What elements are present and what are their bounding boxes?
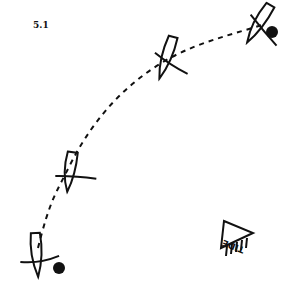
tide-indicator: TIDE xyxy=(221,221,253,256)
boat-hull-icon xyxy=(156,35,178,80)
sail-boom-line xyxy=(20,256,59,263)
sailing-diagram: TIDE xyxy=(0,0,297,290)
boat-hull-icon xyxy=(61,151,77,192)
boat-hull-icon xyxy=(30,233,43,278)
course-path xyxy=(38,25,262,248)
mark-buoy-icon xyxy=(53,262,65,274)
mark-buoy-icon xyxy=(266,26,278,38)
boat-2 xyxy=(53,150,99,195)
boat-3 xyxy=(149,33,196,85)
boat-4 xyxy=(238,0,293,56)
